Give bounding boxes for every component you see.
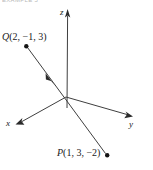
figure-container: EXAMPLE 5 z y x Q(2, −1, 3) P(1, 3, −2) <box>0 0 153 170</box>
point-label-P: P(1, 3, −2) <box>57 148 100 158</box>
segment-PQ <box>28 48 106 154</box>
point-label-Q: Q(2, −1, 3) <box>2 32 47 42</box>
z-axis-label: z <box>60 8 64 17</box>
point-label-P-coordinates: (1, 3, −2) <box>63 147 100 158</box>
point-marker-Q <box>24 44 28 48</box>
point-label-Q-coordinates: (2, −1, 3) <box>9 31 46 42</box>
z-axis-line <box>67 16 68 108</box>
point-marker-P <box>105 153 109 157</box>
x-axis-line <box>22 97 66 122</box>
y-axis-arrowhead <box>124 112 133 119</box>
coordinate-axes-drawing <box>0 0 153 170</box>
x-axis-label: x <box>6 119 10 128</box>
y-axis-label: y <box>129 120 133 129</box>
vector-direction-arrowhead <box>46 73 56 86</box>
